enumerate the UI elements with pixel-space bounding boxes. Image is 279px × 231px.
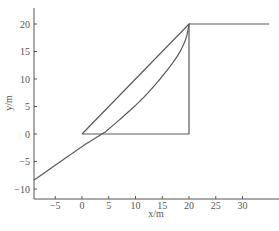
y-tick-label: 0: [25, 129, 30, 140]
chart-canvas: −5051015202530 −10−505101520 x/m y/m: [0, 0, 279, 231]
series-triangle: [82, 24, 189, 134]
y-axis-label: y/m: [3, 95, 14, 111]
x-tick-label: −5: [50, 200, 61, 211]
y-tick-label: −5: [19, 156, 30, 167]
plot-series: [34, 24, 269, 180]
y-tick-label: 10: [20, 74, 30, 85]
x-axis-label: x/m: [148, 208, 164, 219]
x-tick-label: 25: [211, 200, 221, 211]
y-tick-label: 20: [20, 19, 30, 30]
x-tick-label: 30: [238, 200, 248, 211]
y-tick-label: 15: [20, 46, 30, 57]
x-tick-label: 0: [80, 200, 85, 211]
x-tick-label: 20: [184, 200, 194, 211]
y-tick-label: −10: [14, 184, 30, 195]
y-tick-label: 5: [25, 101, 30, 112]
x-tick-label: 10: [131, 200, 141, 211]
axis-lines: [34, 8, 279, 199]
axes: [34, 8, 279, 199]
x-tick-label: 5: [106, 200, 111, 211]
figure-caption-fragment: [0, 222, 279, 231]
